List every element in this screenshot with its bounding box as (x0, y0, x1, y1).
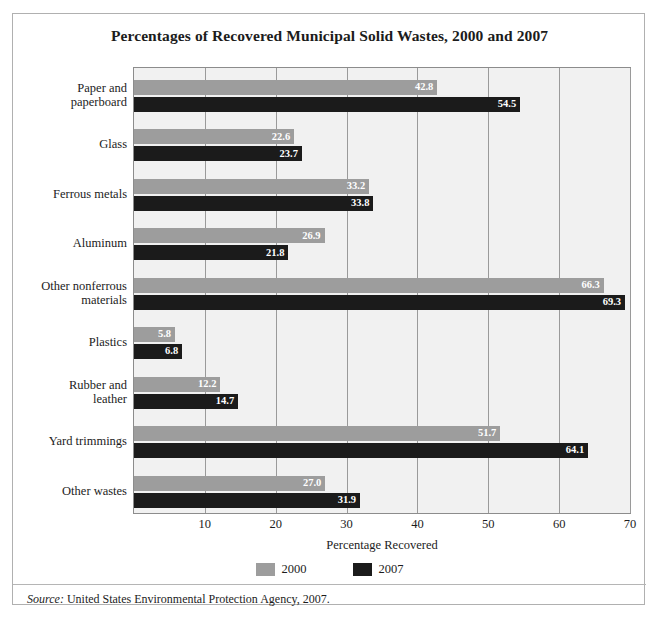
bar-value-label: 33.8 (351, 198, 373, 209)
category-label-2: Glass (15, 137, 127, 151)
chart-legend: 20002007 (13, 562, 646, 577)
bar-2000: 27.0 (134, 476, 325, 491)
bar-value-label: 33.2 (347, 181, 369, 192)
bar-2000: 22.6 (134, 129, 294, 144)
bar-value-label: 27.0 (303, 478, 325, 489)
bar-2000: 5.8 (134, 327, 175, 342)
figure-frame: Percentages of Recovered Municipal Solid… (12, 13, 645, 605)
bar-group: 33.233.8 (134, 179, 630, 211)
bar-value-label: 22.6 (272, 132, 294, 143)
legend-swatch-2007 (353, 563, 372, 576)
bar-2007: 31.9 (134, 493, 360, 508)
gridline-70 (630, 68, 631, 513)
bar-2007: 54.5 (134, 97, 520, 112)
bar-value-label: 26.9 (302, 231, 324, 242)
category-label-7: Rubber andleather (15, 378, 127, 406)
legend-label-2000: 2000 (282, 562, 307, 577)
x-tick-50: 50 (482, 517, 495, 532)
legend-label-2007: 2007 (379, 562, 404, 577)
category-label-6: Plastics (15, 335, 127, 349)
x-axis-ticks: 10203040506070 (133, 517, 631, 535)
bar-2007: 64.1 (134, 443, 588, 458)
source-text: United States Environmental Protection A… (64, 592, 330, 606)
bar-value-label: 12.2 (198, 379, 220, 390)
bar-2007: 69.3 (134, 295, 625, 310)
bar-value-label: 21.8 (266, 248, 288, 259)
bar-2000: 26.9 (134, 228, 325, 243)
bar-value-label: 64.1 (566, 445, 588, 456)
bar-2007: 23.7 (134, 146, 302, 161)
bar-group: 5.86.8 (134, 327, 630, 359)
x-tick-30: 30 (340, 517, 353, 532)
category-label-9: Other wastes (15, 484, 127, 498)
bar-group: 12.214.7 (134, 377, 630, 409)
bar-2000: 51.7 (134, 426, 500, 441)
legend-item-2000: 2000 (256, 562, 307, 577)
bar-group: 27.031.9 (134, 476, 630, 508)
bar-value-label: 14.7 (216, 396, 238, 407)
legend-swatch-2000 (256, 563, 275, 576)
bar-2007: 21.8 (134, 245, 288, 260)
source-note: Source: United States Environmental Prot… (27, 592, 330, 607)
bar-2007: 6.8 (134, 344, 182, 359)
bar-group: 51.764.1 (134, 426, 630, 458)
x-tick-40: 40 (411, 517, 424, 532)
bar-2000: 42.8 (134, 80, 437, 95)
bar-value-label: 66.3 (581, 280, 603, 291)
bar-2000: 33.2 (134, 179, 369, 194)
source-label: Source: (27, 592, 64, 606)
bar-value-label: 54.5 (498, 99, 520, 110)
x-tick-70: 70 (624, 517, 637, 532)
bar-group: 66.369.3 (134, 278, 630, 310)
category-label-3: Ferrous metals (15, 187, 127, 201)
bar-value-label: 6.8 (165, 346, 182, 357)
bar-2000: 12.2 (134, 377, 220, 392)
x-axis-label: Percentage Recovered (133, 538, 631, 553)
bar-value-label: 5.8 (158, 329, 175, 340)
bar-value-label: 42.8 (415, 82, 437, 93)
bar-value-label: 51.7 (478, 428, 500, 439)
bar-value-label: 23.7 (280, 149, 302, 160)
category-label-4: Aluminum (15, 236, 127, 250)
category-label-1: Paper andpaperboard (15, 81, 127, 109)
bar-2000: 66.3 (134, 278, 604, 293)
bar-group: 26.921.8 (134, 228, 630, 260)
bar-value-label: 31.9 (338, 495, 360, 506)
legend-item-2007: 2007 (353, 562, 404, 577)
bar-2007: 14.7 (134, 394, 238, 409)
source-divider (13, 584, 646, 585)
plot-area: 42.854.522.623.733.233.826.921.866.369.3… (133, 67, 631, 514)
category-label-5: Other nonferrousmaterials (15, 279, 127, 307)
bar-group: 42.854.5 (134, 80, 630, 112)
category-axis-labels: Paper andpaperboardGlassFerrous metalsAl… (13, 67, 127, 514)
page-header-faint (0, 0, 660, 11)
page-title: Percentages of Recovered Municipal Solid… (13, 27, 646, 45)
x-tick-20: 20 (269, 517, 282, 532)
bar-value-label: 69.3 (603, 297, 625, 308)
x-tick-10: 10 (199, 517, 212, 532)
bar-2007: 33.8 (134, 196, 373, 211)
bar-group: 22.623.7 (134, 129, 630, 161)
category-label-8: Yard trimmings (15, 434, 127, 448)
x-tick-60: 60 (553, 517, 566, 532)
